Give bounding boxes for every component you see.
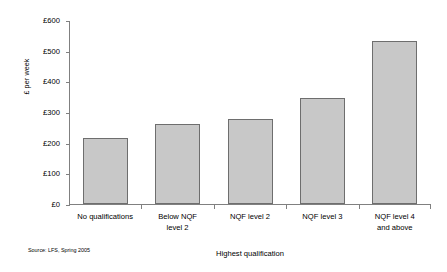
- y-axis-tick-label: £0: [52, 200, 60, 209]
- x-axis-category-label-line: NQF level 3: [286, 212, 358, 223]
- x-axis-category-labels: No qualificationsBelow NQFlevel 2NQF lev…: [69, 212, 431, 246]
- y-axis-tick-label: £300: [43, 108, 60, 117]
- source-note: Source: LFS, Spring 2005: [28, 247, 90, 253]
- y-axis-tick-label: £200: [43, 139, 60, 148]
- x-axis-category-label-line: Below NQF: [141, 212, 213, 223]
- plot-area: £0£100£200£300£400£500£600: [69, 21, 431, 205]
- x-axis-category-label-line: No qualifications: [69, 212, 141, 223]
- x-axis-tick: [141, 205, 142, 209]
- y-axis-title: £ per week: [22, 32, 31, 122]
- x-axis-title: Highest qualification: [69, 249, 431, 258]
- x-axis-category-label-line: NQF level 2: [214, 212, 286, 223]
- bars-layer: [69, 21, 431, 205]
- x-axis-category-label: Below NQFlevel 2: [141, 212, 213, 233]
- bar: [155, 124, 200, 204]
- y-axis-tick: £200: [66, 144, 70, 145]
- x-axis-category-label-line: level 2: [141, 223, 213, 234]
- x-axis-tick: [214, 205, 215, 209]
- x-axis-category-label: No qualifications: [69, 212, 141, 223]
- bar: [228, 119, 273, 204]
- y-axis-tick: £600: [66, 21, 70, 22]
- y-axis-tick-label: £400: [43, 77, 60, 86]
- y-axis-tick: £100: [66, 174, 70, 175]
- y-axis-tick: £400: [66, 82, 70, 83]
- x-axis-category-label: NQF level 3: [286, 212, 358, 223]
- x-axis-tick: [359, 205, 360, 209]
- bar-chart: £ per week £0£100£200£300£400£500£600 No…: [0, 0, 447, 272]
- y-axis-tick: £300: [66, 113, 70, 114]
- bar: [83, 138, 128, 204]
- y-axis-tick-label: £600: [43, 16, 60, 25]
- y-axis-tick-label: £100: [43, 169, 60, 178]
- x-axis-tick: [286, 205, 287, 209]
- x-axis-category-label-line: and above: [359, 223, 431, 234]
- x-axis-category-label: NQF level 4and above: [359, 212, 431, 233]
- x-axis-category-label-line: NQF level 4: [359, 212, 431, 223]
- bar: [300, 98, 345, 204]
- bar: [372, 41, 417, 204]
- y-axis-tick: £500: [66, 52, 70, 53]
- y-axis-tick: £0: [66, 205, 70, 206]
- x-axis-category-label: NQF level 2: [214, 212, 286, 223]
- y-axis-tick-label: £500: [43, 47, 60, 56]
- x-axis-tick: [430, 205, 431, 209]
